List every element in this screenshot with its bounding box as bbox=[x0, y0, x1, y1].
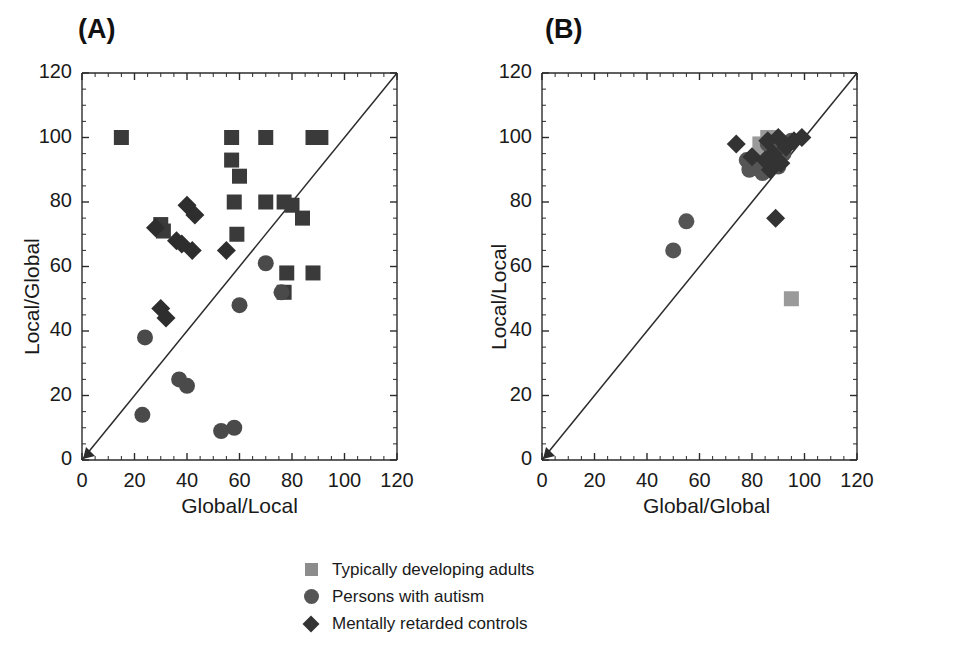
panel-b: (B) Global/Global Local/Local 0204060801… bbox=[460, 0, 930, 545]
data-point-square bbox=[258, 130, 273, 145]
square-marker-icon bbox=[296, 563, 326, 576]
data-point-square bbox=[279, 265, 294, 280]
panel-a-ytick-label: 120 bbox=[6, 60, 72, 83]
data-point-circle bbox=[137, 329, 153, 345]
panel-b-ytick-label: 120 bbox=[466, 60, 532, 83]
legend-item: Typically developing adults bbox=[296, 556, 676, 583]
panel-b-xlabel: Global/Global bbox=[549, 494, 864, 518]
panel-a-ytick-label: 0 bbox=[6, 447, 72, 470]
panel-b-ytick-label: 0 bbox=[466, 447, 532, 470]
legend: Typically developing adults Persons with… bbox=[296, 556, 676, 637]
data-point-square bbox=[295, 211, 310, 226]
panel-a-ytick-label: 60 bbox=[6, 254, 72, 277]
data-point-circle bbox=[274, 284, 290, 300]
data-point-circle bbox=[134, 407, 150, 423]
data-point-circle bbox=[678, 213, 694, 229]
data-point-square bbox=[313, 130, 328, 145]
data-point-circle bbox=[179, 378, 195, 394]
panel-a: (A) Global/Local Local/Global 0204060801… bbox=[0, 0, 470, 545]
data-point-square bbox=[224, 130, 239, 145]
panel-b-ytick-label: 100 bbox=[466, 125, 532, 148]
panel-a-ytick-label: 80 bbox=[6, 189, 72, 212]
panel-a-ytick-label: 100 bbox=[6, 125, 72, 148]
figure-root: (A) Global/Local Local/Global 0204060801… bbox=[0, 0, 960, 650]
data-point-circle bbox=[665, 242, 681, 258]
panel-a-ytick-label: 40 bbox=[6, 318, 72, 341]
legend-item: Mentally retarded controls bbox=[296, 610, 676, 637]
legend-item: Persons with autism bbox=[296, 583, 676, 610]
data-point-circle bbox=[232, 297, 248, 313]
data-point-diamond bbox=[727, 134, 746, 153]
panel-a-ytick-label: 20 bbox=[6, 383, 72, 406]
panel-a-xlabel: Global/Local bbox=[82, 494, 397, 518]
data-point-square bbox=[114, 130, 129, 145]
data-point-square bbox=[306, 265, 321, 280]
data-point-diamond bbox=[766, 209, 785, 228]
data-point-square bbox=[224, 153, 239, 168]
diamond-marker-icon bbox=[296, 618, 326, 630]
data-point-square bbox=[232, 169, 247, 184]
circle-marker-icon bbox=[296, 589, 326, 604]
panel-a-xtick-label: 120 bbox=[357, 469, 437, 492]
data-point-square bbox=[227, 195, 242, 210]
data-point-square bbox=[258, 195, 273, 210]
panel-b-ytick-label: 40 bbox=[466, 318, 532, 341]
panel-b-ytick-label: 60 bbox=[466, 254, 532, 277]
legend-label: Typically developing adults bbox=[326, 560, 534, 580]
data-point-square bbox=[229, 227, 244, 242]
legend-label: Persons with autism bbox=[326, 587, 484, 607]
legend-label: Mentally retarded controls bbox=[326, 614, 528, 634]
panel-b-ytick-label: 20 bbox=[466, 383, 532, 406]
data-point-diamond bbox=[217, 241, 236, 260]
data-point-square bbox=[285, 198, 300, 213]
panel-b-xtick-label: 120 bbox=[817, 469, 897, 492]
panel-b-ytick-label: 80 bbox=[466, 189, 532, 212]
data-point-circle bbox=[226, 420, 242, 436]
data-point-circle bbox=[258, 255, 274, 271]
data-point-square bbox=[784, 291, 799, 306]
